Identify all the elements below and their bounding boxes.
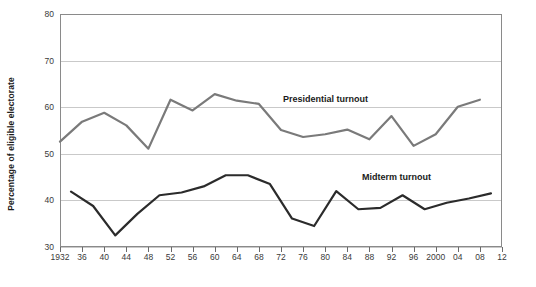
- y-axis-tick-labels: 304050607080: [26, 0, 54, 287]
- x-tick-label-1996: 96: [409, 252, 418, 262]
- x-tick-label-2012: 12: [497, 252, 506, 262]
- series-lines: [60, 14, 502, 247]
- x-tick-label-1952: 52: [166, 252, 175, 262]
- series-line-presidential-turnout: [60, 94, 480, 149]
- x-tick-label-1960: 60: [210, 252, 219, 262]
- x-tick-label-2000: 2000: [426, 252, 445, 262]
- x-tick-label-2004: 04: [453, 252, 462, 262]
- series-label-midterm-turnout: Midterm turnout: [362, 172, 431, 182]
- y-tick-label-70: 70: [30, 56, 54, 66]
- y-tick-label-40: 40: [30, 195, 54, 205]
- x-tick-label-1932: 1932: [51, 252, 70, 262]
- x-tick-label-1964: 64: [232, 252, 241, 262]
- y-tick-label-60: 60: [30, 102, 54, 112]
- series-label-presidential-turnout: Presidential turnout: [283, 94, 368, 104]
- x-tick-label-1940: 40: [99, 252, 108, 262]
- x-tick-label-1972: 72: [276, 252, 285, 262]
- x-tick-label-1936: 36: [77, 252, 86, 262]
- turnout-line-chart: Percentage of eligible electorate 304050…: [0, 0, 536, 287]
- plot-area: [60, 14, 502, 247]
- x-tick-label-1992: 92: [387, 252, 396, 262]
- y-tick-label-80: 80: [30, 9, 54, 19]
- y-tick-label-50: 50: [30, 149, 54, 159]
- x-tick-label-2008: 08: [475, 252, 484, 262]
- x-tick-label-1968: 68: [254, 252, 263, 262]
- x-tick-label-1948: 48: [144, 252, 153, 262]
- x-tick-label-1980: 80: [320, 252, 329, 262]
- series-line-midterm-turnout: [71, 175, 491, 235]
- x-tick-label-1976: 76: [298, 252, 307, 262]
- y-axis-title: Percentage of eligible electorate: [2, 0, 20, 287]
- x-tick-label-1984: 84: [343, 252, 352, 262]
- x-tick-label-1944: 44: [122, 252, 131, 262]
- y-tick-label-30: 30: [30, 242, 54, 252]
- x-tick-label-1988: 88: [365, 252, 374, 262]
- x-tick-label-1956: 56: [188, 252, 197, 262]
